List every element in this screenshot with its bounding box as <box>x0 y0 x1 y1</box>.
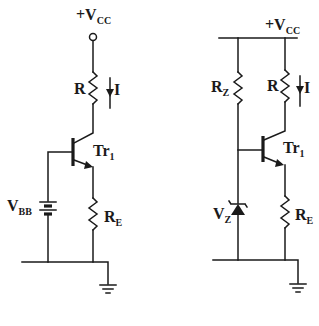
right-zener-diode <box>231 204 245 215</box>
left-ground-icon <box>100 285 116 293</box>
left-current-arrow-head <box>106 89 114 97</box>
right-ground-bus <box>213 260 298 283</box>
left-re-label: RE <box>104 208 123 228</box>
right-rz-label: RZ <box>211 78 230 98</box>
right-i-label: I <box>304 79 310 96</box>
right-circuit: +VCC RZ VZ R I Tr1 RE <box>211 16 314 292</box>
circuit-diagram: +VCC R I Tr1 RE VBB <box>0 0 319 326</box>
right-collector-wire <box>264 102 285 140</box>
left-circuit: +VCC R I Tr1 RE VBB <box>7 6 123 293</box>
right-emitter-arrow <box>275 159 284 167</box>
left-resistor-r <box>89 72 97 104</box>
left-collector-wire <box>74 104 93 143</box>
right-current-arrow-head <box>296 86 304 94</box>
right-vz-label: VZ <box>213 205 232 225</box>
schematic: +VCC R I Tr1 RE VBB <box>0 0 319 326</box>
left-vcc-terminal <box>90 34 97 41</box>
left-ground-bus <box>22 262 108 284</box>
right-resistor-r <box>281 70 289 102</box>
right-r-label: R <box>267 77 279 94</box>
left-resistor-re <box>89 198 97 230</box>
right-re-label: RE <box>295 206 314 226</box>
right-vcc-label: +VCC <box>265 16 300 36</box>
right-transistor-label: Tr1 <box>283 139 305 159</box>
right-resistor-re <box>281 196 289 228</box>
left-emitter-arrow <box>84 161 93 169</box>
left-i-label: I <box>114 81 120 98</box>
left-vcc-label: +VCC <box>76 6 111 26</box>
left-base-wire <box>48 152 73 201</box>
left-r-label: R <box>74 80 86 97</box>
right-ground-icon <box>290 284 306 292</box>
left-transistor-label: Tr1 <box>93 142 115 162</box>
left-vbb-label: VBB <box>7 197 32 217</box>
right-resistor-rz <box>234 72 242 104</box>
